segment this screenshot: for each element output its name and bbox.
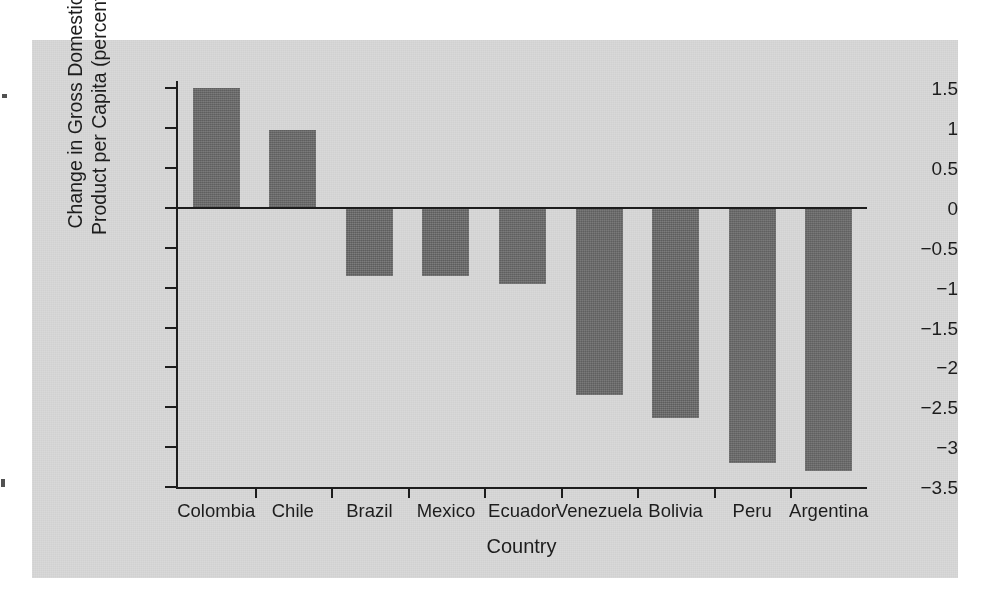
x-category-label-colombia: Colombia <box>177 502 255 521</box>
x-category-label-peru: Peru <box>733 502 772 521</box>
y-tick-mark <box>165 327 178 329</box>
y-tick-mark <box>165 406 178 408</box>
y-tick-mark <box>165 87 178 89</box>
x-tick-mark <box>637 487 639 498</box>
x-category-label-mexico: Mexico <box>417 502 476 521</box>
x-category-label-argentina: Argentina <box>789 502 868 521</box>
x-category-label-venezuela: Venezuela <box>556 502 642 521</box>
bar-chile <box>269 130 316 208</box>
y-tick-mark <box>165 247 178 249</box>
y-axis-title-line-2: Product per Capita (percent) <box>88 0 112 235</box>
x-tick-mark <box>561 487 563 498</box>
y-tick-mark <box>165 167 178 169</box>
bar-mexico <box>422 208 469 276</box>
figure-panel: Change in Gross Domestic Product per Cap… <box>32 40 958 578</box>
scan-artifact-top <box>2 94 7 98</box>
x-axis-line <box>176 487 867 489</box>
y-axis-title-line-1: Change in Gross Domestic <box>64 0 88 229</box>
y-axis-line <box>176 81 178 488</box>
y-tick-label: 1 <box>830 119 958 138</box>
bar-colombia <box>193 88 240 208</box>
x-category-label-ecuador: Ecuador <box>488 502 557 521</box>
y-tick-label: 1.5 <box>830 79 958 98</box>
scan-artifact-bottom <box>1 479 5 487</box>
x-category-label-chile: Chile <box>272 502 314 521</box>
bar-ecuador <box>499 208 546 284</box>
x-tick-mark <box>484 487 486 498</box>
x-category-label-brazil: Brazil <box>346 502 392 521</box>
x-tick-mark <box>714 487 716 498</box>
y-tick-mark <box>165 366 178 368</box>
y-tick-mark <box>165 287 178 289</box>
x-tick-mark <box>331 487 333 498</box>
x-axis-title: Country <box>176 535 867 558</box>
y-tick-mark <box>165 446 178 448</box>
y-tick-label: −3.5 <box>830 477 958 496</box>
bar-argentina <box>805 208 852 471</box>
x-tick-mark <box>408 487 410 498</box>
x-category-label-bolivia: Bolivia <box>648 502 703 521</box>
x-tick-mark <box>790 487 792 498</box>
zero-baseline <box>176 207 867 209</box>
y-axis-title: Change in Gross Domestic Product per Cap… <box>60 0 116 314</box>
y-tick-label: 0.5 <box>830 159 958 178</box>
bar-brazil <box>346 208 393 276</box>
y-tick-mark <box>165 486 178 488</box>
y-tick-mark <box>165 127 178 129</box>
bar-bolivia <box>652 208 699 418</box>
plot-area: Change in Gross Domestic Product per Cap… <box>32 40 958 578</box>
bar-venezuela <box>576 208 623 395</box>
x-tick-mark <box>255 487 257 498</box>
bar-peru <box>729 208 776 463</box>
